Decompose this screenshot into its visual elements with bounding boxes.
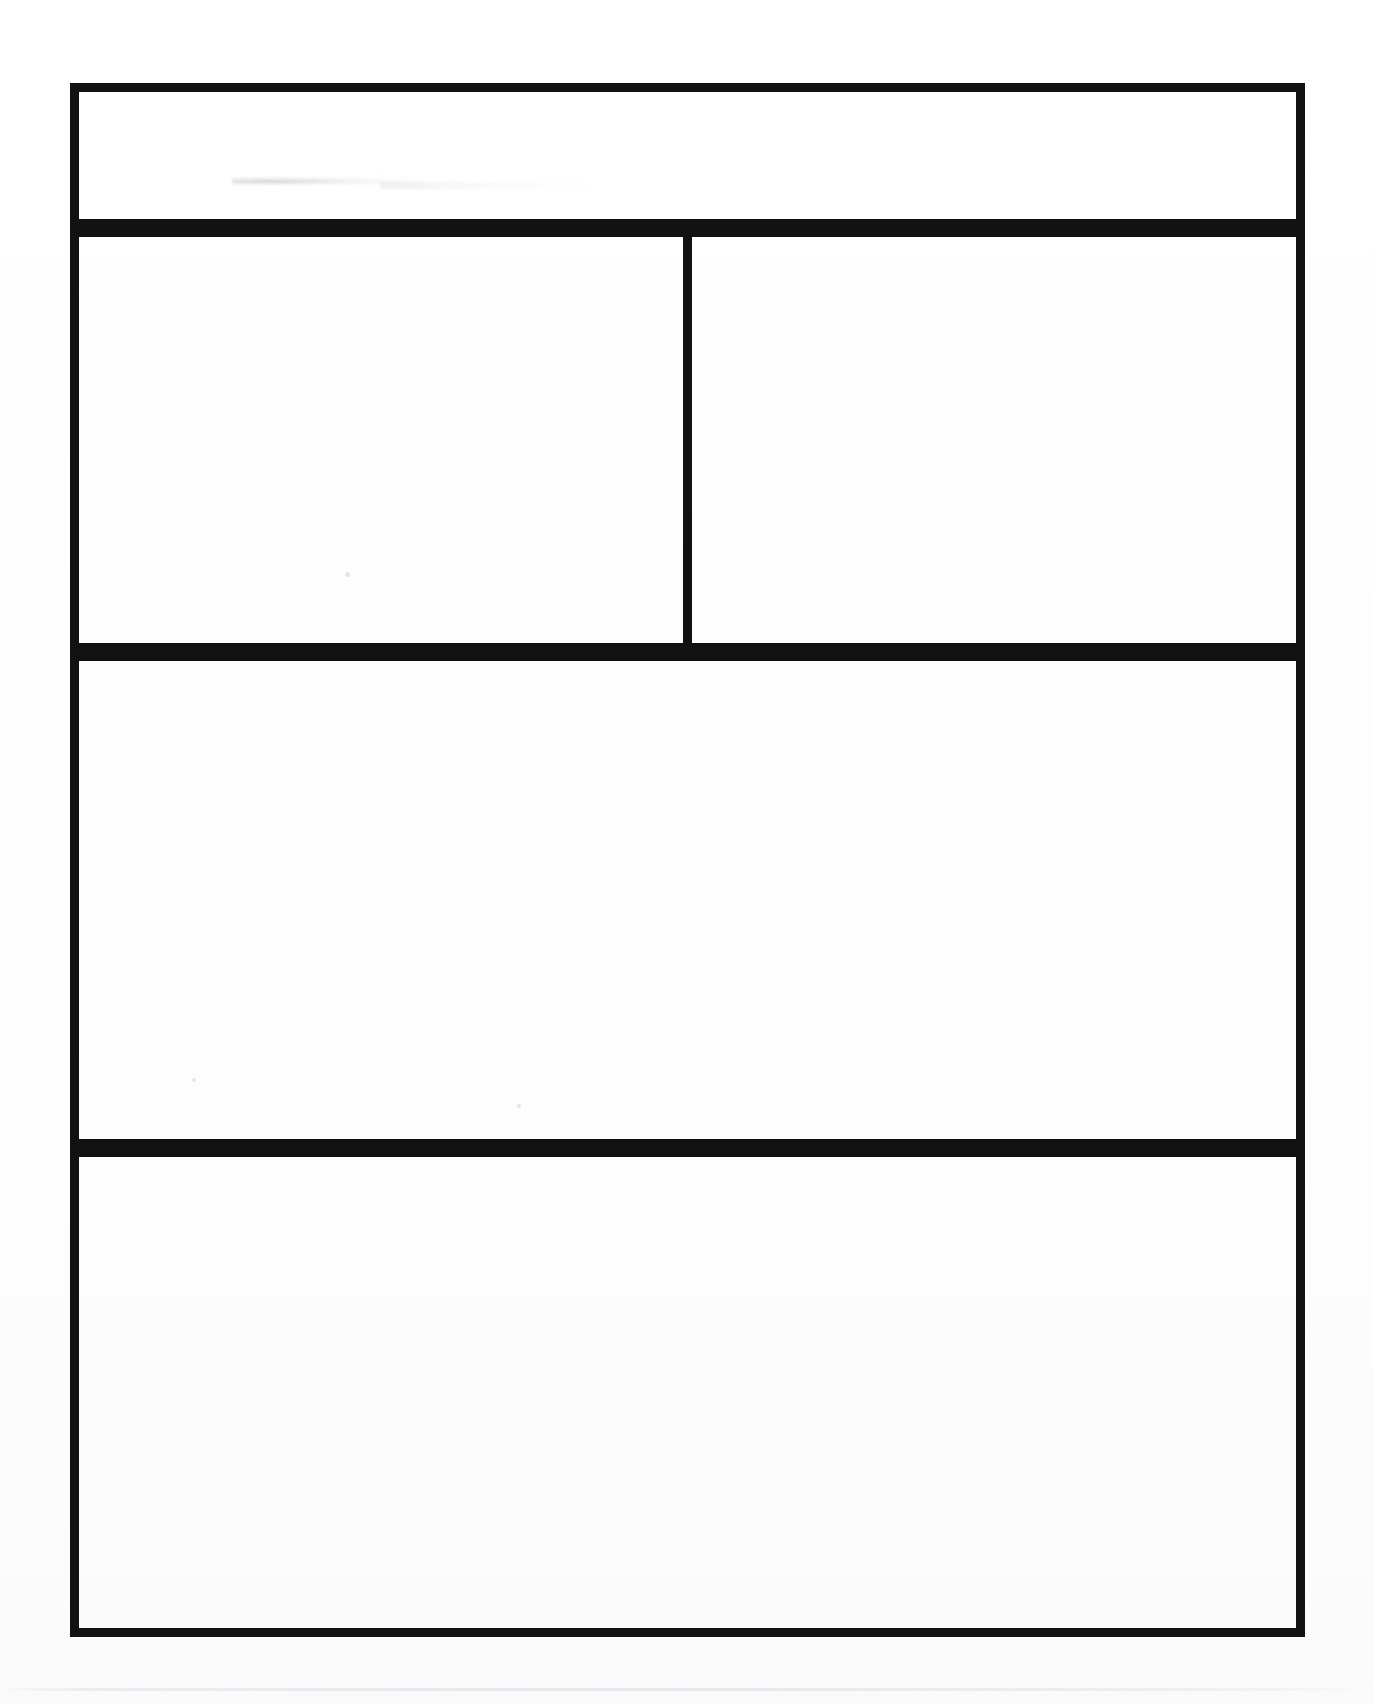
scan-band-icon (0, 1688, 1374, 1691)
form-cell-row1[interactable] (70, 83, 1305, 228)
form-cell-row4[interactable] (70, 1148, 1305, 1637)
scanned-page (0, 0, 1374, 1704)
form-cell-row2-right[interactable] (683, 228, 1305, 652)
form-frame (70, 83, 1305, 1637)
form-cell-row3[interactable] (70, 652, 1305, 1148)
form-cell-row2-left[interactable] (70, 228, 692, 652)
